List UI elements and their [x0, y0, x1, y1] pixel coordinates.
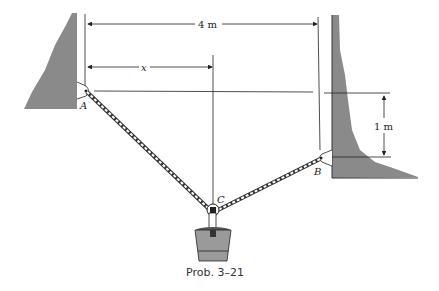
support-b [320, 150, 333, 166]
bucket [195, 213, 231, 261]
support-a [77, 82, 89, 99]
dimension-1m: 1 m [374, 96, 394, 155]
left-wall [24, 13, 77, 109]
label-b: B [313, 166, 321, 177]
horizontal-line-a [94, 91, 313, 92]
dimension-1m-label: 1 m [374, 121, 394, 132]
dimension-x-label: x [141, 62, 147, 73]
label-c: C [217, 194, 225, 205]
chain-bc [218, 159, 320, 210]
figure-caption: Prob. 3–21 [186, 266, 244, 279]
dimension-4m: 4 m [88, 19, 317, 30]
dimension-4m-label: 4 m [198, 19, 218, 30]
dimension-x: x [88, 62, 212, 73]
chain-ac [87, 92, 210, 210]
label-a: A [79, 100, 87, 111]
right-reference-line [318, 17, 320, 150]
right-wall [332, 15, 418, 178]
diagram-canvas: 4 m x 1 m A B C [0, 0, 439, 291]
